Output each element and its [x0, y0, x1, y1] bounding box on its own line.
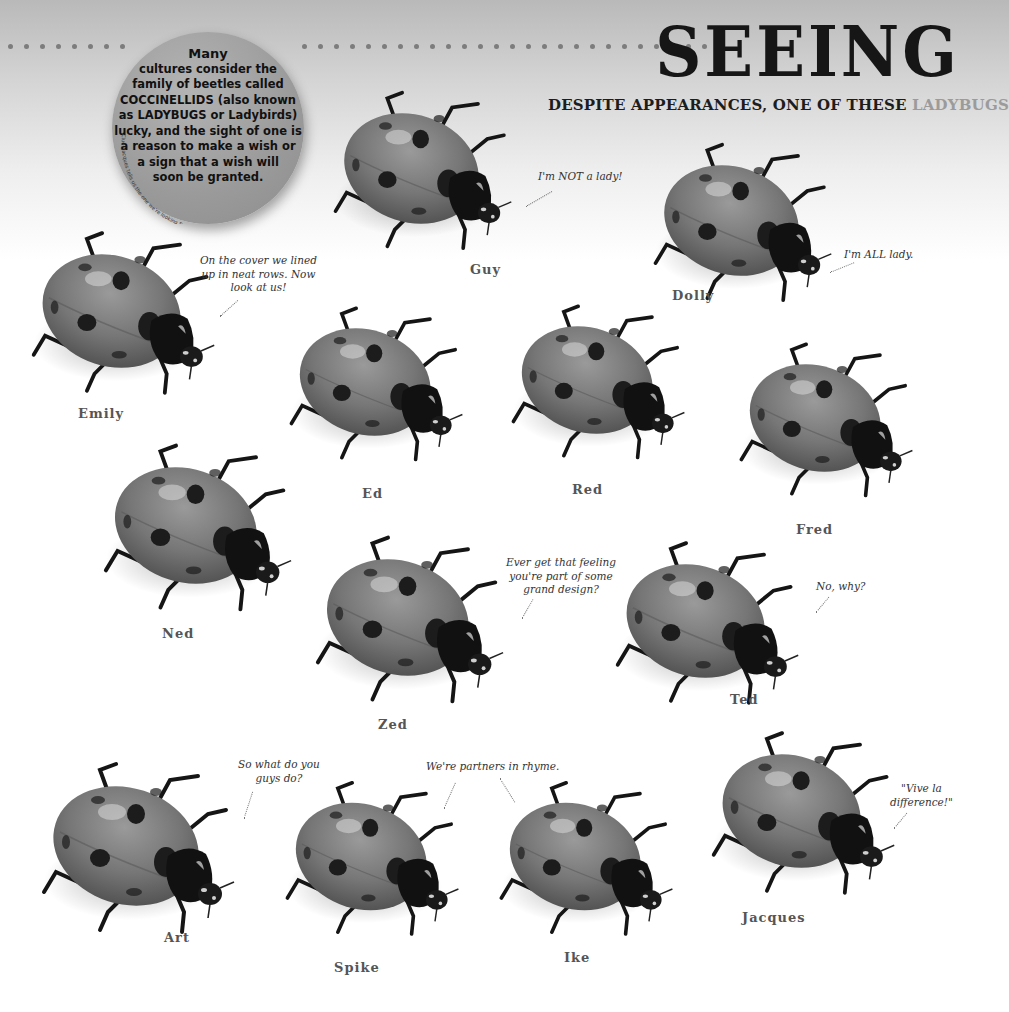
ladybug-name-ed: Ed — [362, 486, 383, 501]
ladybug-name-ted: Ted — [730, 692, 759, 707]
ladybug-dolly — [650, 134, 835, 309]
ladybug-name-spike: Spike — [334, 960, 380, 975]
speech-emily: On the cover we linedup in neat rows. No… — [200, 254, 317, 295]
page-subtitle: DESPITE APPEARANCES, ONE OF THESE LADYBU… — [548, 96, 1009, 114]
ladybug-name-guy: Guy — [470, 262, 501, 277]
ladybug-red — [508, 296, 688, 466]
ladybug-zed — [312, 526, 507, 711]
ladybug-spike — [282, 770, 462, 945]
subtitle-main: DESPITE APPEARANCES, ONE OF THESE — [548, 96, 912, 114]
upside-down-clue-text: Clue: Jacques tells us the one we're loo… — [114, 128, 302, 224]
speech-dolly: I'm ALL lady. — [844, 248, 913, 262]
info-line: cultures consider the — [112, 62, 304, 78]
svg-text:Clue: Jacques tells us the one: Clue: Jacques tells us the one we're loo… — [120, 134, 221, 224]
ladybug-name-emily: Emily — [78, 406, 124, 421]
ladybug-ned — [100, 434, 295, 619]
ladybug-ike — [496, 770, 676, 945]
info-lead: Many — [112, 46, 304, 62]
ladybug-ted — [612, 532, 802, 712]
speech-jacques: "Vive ladifference!" — [890, 782, 953, 809]
page-title: SEEING — [655, 18, 960, 87]
ladybug-art — [38, 752, 238, 942]
info-line: family of beetles called — [112, 77, 304, 93]
ladybug-jacques — [708, 722, 898, 902]
dotted-rule-left — [8, 44, 125, 50]
speech-ted: No, why? — [816, 580, 866, 594]
ladybug-name-ned: Ned — [162, 626, 194, 641]
subtitle-highlight: LADYBUGS — [912, 96, 1009, 114]
ladybug-name-jacques: Jacques — [742, 910, 806, 925]
ladybug-name-ike: Ike — [564, 950, 590, 965]
ladybug-guy — [330, 82, 515, 257]
dotted-rule-right — [302, 44, 707, 50]
ladybug-name-zed: Zed — [378, 717, 408, 732]
speech-pointer — [816, 597, 830, 613]
ladybug-emily — [28, 222, 218, 402]
speech-guy: I'm NOT a lady! — [538, 170, 623, 184]
info-line: as LADYBUGS or Ladybirds) — [112, 108, 304, 124]
speech-pointer — [526, 191, 552, 207]
ladybug-ed — [286, 298, 466, 468]
speech-pointer — [220, 300, 239, 317]
speech-zed: Ever get that feelingyou're part of some… — [506, 556, 616, 597]
info-line: COCCINELLIDS (also known — [112, 93, 304, 109]
speech-pointer — [522, 599, 534, 619]
info-circle: Many cultures consider the family of bee… — [112, 32, 304, 224]
ladybug-name-art: Art — [164, 930, 190, 945]
speech-pointer — [244, 792, 254, 819]
ladybug-name-red: Red — [572, 482, 603, 497]
ladybug-fred — [736, 334, 916, 504]
